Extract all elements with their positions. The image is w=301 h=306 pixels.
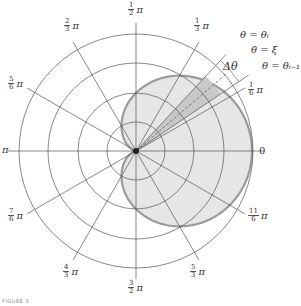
pi-symbol: π: [261, 210, 268, 221]
pi-symbol: π: [16, 78, 23, 89]
denominator: 3: [194, 26, 200, 33]
pi-symbol: π: [72, 20, 79, 31]
annotation-xi: θ = ξ: [251, 45, 277, 55]
denominator: 3: [190, 272, 196, 279]
label-angle-5pi-over-3: 53π: [190, 264, 205, 279]
label-angle-11pi-over-6: 116π: [248, 208, 268, 223]
pi-symbol: π: [136, 4, 143, 15]
pi-symbol: π: [136, 282, 143, 293]
label-angle-0: 0: [259, 146, 265, 156]
denominator: 6: [248, 90, 254, 97]
label-angle-pi-over-6: 16π: [248, 82, 263, 97]
annotation-theta-i: θ = θᵢ: [240, 30, 269, 40]
label-angle-7pi-over-6: 76π: [8, 208, 23, 223]
label-angle-pi-over-2: 12π: [128, 2, 143, 17]
denominator: 2: [128, 288, 134, 295]
denominator: 3: [63, 272, 69, 279]
denominator: 2: [128, 10, 134, 17]
label-angle-pi-over-3: 13π: [194, 18, 209, 33]
label-angle-2pi-over-3: 23π: [64, 18, 79, 33]
polar-diagram: 0 16π 13π 12π 23π 56π π 76π 43π 32π 53π …: [0, 0, 301, 306]
figure-caption: FIGURE 3: [2, 298, 29, 304]
label-angle-4pi-over-3: 43π: [63, 264, 78, 279]
denominator: 6: [250, 216, 256, 223]
pi-symbol: π: [198, 266, 205, 277]
label-angle-5pi-over-6: 56π: [8, 76, 23, 91]
pi-symbol: π: [256, 84, 263, 95]
denominator: 6: [8, 216, 14, 223]
annotation-theta-i-minus-1: θ = θᵢ₋₁: [262, 61, 300, 71]
label-angle-pi: π: [2, 145, 9, 155]
pi-symbol: π: [202, 20, 209, 31]
pi-symbol: π: [71, 266, 78, 277]
pi-symbol: π: [16, 210, 23, 221]
origin-point: [133, 148, 139, 154]
denominator: 3: [64, 26, 70, 33]
label-angle-3pi-over-2: 32π: [128, 280, 143, 295]
denominator: 6: [8, 84, 14, 91]
annotation-delta-theta: Δθ: [223, 61, 238, 72]
